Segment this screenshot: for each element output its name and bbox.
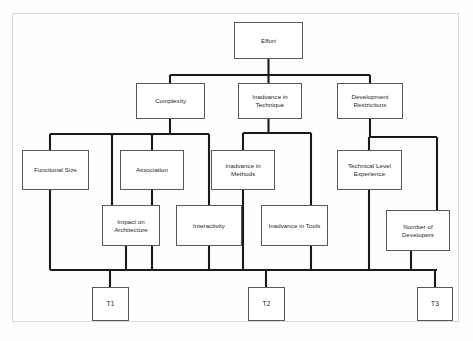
node-complexity[interactable]: Complexity	[136, 83, 205, 119]
diagram-canvas: Effort Complexity Inadvance in Technique…	[0, 0, 473, 341]
node-t3[interactable]: T3	[417, 287, 453, 321]
node-label-impact-on-architecture: Impact on Architecture	[114, 218, 148, 234]
node-label-t1: T1	[107, 300, 115, 308]
node-number-of-developers[interactable]: Number of Developers	[386, 210, 450, 251]
node-inadvance-in-methods[interactable]: Inadvance in Methods	[211, 150, 275, 190]
node-label-technical-level-experience: Technical Level Experience	[348, 162, 391, 178]
node-inadvance-in-tools[interactable]: Inadvance in Tools	[261, 205, 328, 246]
node-label-development-restrictions: Development Restrictions	[351, 93, 388, 109]
node-association[interactable]: Association	[120, 150, 184, 190]
node-label-effort: Effort	[261, 37, 276, 45]
node-interactivity[interactable]: Interactivity	[176, 205, 242, 246]
node-label-inadvance-in-methods: Inadvance in Methods	[225, 162, 261, 178]
node-label-inadvance-in-tools: Inadvance in Tools	[268, 222, 320, 230]
node-impact-on-architecture[interactable]: Impact on Architecture	[102, 205, 160, 246]
node-label-functional-size: Functional Size	[34, 166, 77, 174]
node-label-complexity: Complexity	[155, 97, 186, 105]
node-label-t3: T3	[431, 300, 439, 308]
node-effort[interactable]: Effort	[234, 22, 303, 59]
node-t1[interactable]: T1	[92, 287, 129, 321]
node-inadvance-in-technique[interactable]: Inadvance in Technique	[238, 83, 302, 119]
node-functional-size[interactable]: Functional Size	[22, 150, 89, 190]
node-label-t2: T2	[263, 300, 271, 308]
node-development-restrictions[interactable]: Development Restrictions	[337, 83, 403, 119]
node-label-association: Association	[136, 166, 168, 174]
node-label-inadvance-in-technique: Inadvance in Technique	[252, 93, 288, 109]
node-label-number-of-developers: Number of Developers	[402, 223, 434, 239]
node-label-interactivity: Interactivity	[193, 222, 225, 230]
node-technical-level-experience[interactable]: Technical Level Experience	[337, 150, 402, 190]
node-t2[interactable]: T2	[248, 287, 285, 321]
